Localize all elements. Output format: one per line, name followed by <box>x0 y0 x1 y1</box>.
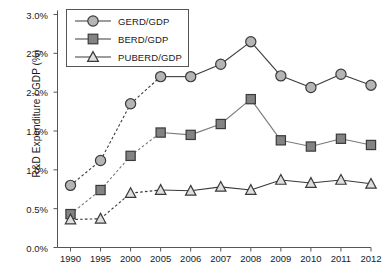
data-point-triangle <box>125 188 135 198</box>
series-berd-gdp <box>66 95 376 219</box>
x-axis-tick-label: 2007 <box>210 253 231 264</box>
legend-triangle-marker-icon <box>73 49 113 65</box>
data-point-circle <box>186 72 196 82</box>
x-axis-tick-label: 2000 <box>120 253 141 264</box>
data-point-circle <box>336 69 346 79</box>
legend-label-puberd: PUBERD/GDP <box>118 52 182 63</box>
legend-item-berd: BERD/GDP <box>73 30 168 48</box>
data-point-circle <box>246 37 256 47</box>
series-line-segment <box>161 190 191 191</box>
x-axis-tick-label: 2006 <box>180 253 201 264</box>
data-point-circle <box>126 99 136 109</box>
legend-circle-marker-icon <box>73 13 113 29</box>
data-point-triangle <box>276 175 286 185</box>
x-axis-tick-label: 1995 <box>90 253 111 264</box>
data-point-triangle <box>336 175 346 185</box>
legend-label-berd: BERD/GDP <box>118 34 168 45</box>
x-axis-tick-label: 2010 <box>300 253 321 264</box>
legend: GERD/GDP BERD/GDP PUBERD/GDP <box>66 9 189 67</box>
data-point-square <box>336 134 345 143</box>
data-point-circle <box>95 155 105 165</box>
legend-item-gerd: GERD/GDP <box>73 12 169 30</box>
data-point-square <box>276 136 285 145</box>
x-axis-tick-label: 2008 <box>240 253 261 264</box>
series-line-segment <box>251 99 281 140</box>
x-axis-tick-label: 2012 <box>360 253 381 264</box>
series-line-segment <box>251 42 281 76</box>
x-axis-tick-label: 2005 <box>150 253 171 264</box>
data-point-circle <box>306 82 316 92</box>
data-point-square <box>246 95 255 104</box>
x-axis-tick-label: 2009 <box>270 253 291 264</box>
data-point-triangle <box>155 185 165 195</box>
data-point-triangle <box>95 213 105 223</box>
data-point-square <box>186 130 195 139</box>
data-point-square <box>156 128 165 137</box>
data-point-square <box>126 151 135 160</box>
series-line-segment <box>251 180 281 190</box>
legend-item-puberd: PUBERD/GDP <box>73 48 182 66</box>
x-axis-tick-label: 2011 <box>331 253 351 264</box>
data-point-triangle <box>216 182 226 192</box>
legend-square-marker-icon <box>73 31 113 47</box>
legend-label-gerd: GERD/GDP <box>118 16 169 27</box>
series-puberd-gdp <box>65 175 376 224</box>
data-point-square <box>366 140 375 149</box>
x-axis-tick-label: 1990 <box>60 253 81 264</box>
data-point-circle <box>276 71 286 81</box>
data-point-square <box>96 185 105 194</box>
data-point-square <box>306 142 315 151</box>
data-point-circle <box>216 59 226 69</box>
data-point-circle <box>65 180 75 190</box>
data-point-circle <box>156 72 166 82</box>
data-point-circle <box>366 80 376 90</box>
series-line-segment <box>71 161 101 186</box>
data-point-square <box>216 119 225 128</box>
series-line-segment <box>131 77 161 104</box>
